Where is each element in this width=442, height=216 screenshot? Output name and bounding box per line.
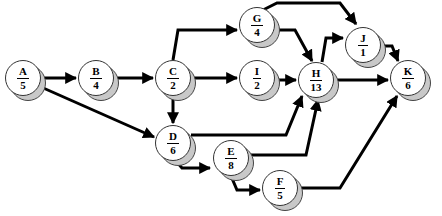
node-label: J: [358, 33, 368, 46]
node-f: F5: [262, 170, 298, 206]
network-diagram: A5B4C2D6E8F5G4I2H13J1K6: [0, 0, 442, 216]
node-circle: D6: [155, 125, 191, 161]
node-d: D6: [155, 125, 191, 161]
node-duration: 2: [254, 79, 260, 91]
node-circle: H13: [298, 62, 334, 98]
node-i: I2: [239, 60, 275, 96]
node-label: H: [310, 68, 323, 81]
node-label: K: [402, 66, 415, 79]
node-h: H13: [298, 62, 334, 98]
node-circle: F5: [262, 170, 298, 206]
edge-h-j: [322, 38, 343, 62]
node-label: E: [225, 146, 236, 159]
node-circle: B4: [78, 60, 114, 96]
node-label: F: [275, 176, 286, 189]
node-circle: E8: [213, 140, 249, 176]
node-circle: G4: [239, 7, 275, 43]
node-j: J1: [345, 27, 381, 63]
node-label: C: [167, 66, 179, 79]
node-duration: 1: [360, 46, 366, 58]
edge-c-g: [173, 30, 237, 60]
node-duration: 6: [170, 144, 176, 156]
node-circle: J1: [345, 27, 381, 63]
node-g: G4: [239, 7, 275, 43]
node-label: A: [17, 66, 29, 79]
node-circle: K6: [390, 60, 426, 96]
edge-f-k: [298, 96, 397, 188]
node-duration: 13: [311, 81, 322, 93]
node-duration: 4: [254, 26, 260, 38]
node-duration: 2: [170, 79, 176, 91]
node-duration: 8: [228, 159, 234, 171]
node-duration: 5: [20, 79, 26, 91]
node-c: C2: [155, 60, 191, 96]
node-label: D: [167, 131, 179, 144]
node-circle: I2: [239, 60, 275, 96]
node-duration: 4: [93, 79, 99, 91]
node-circle: C2: [155, 60, 191, 96]
node-label: B: [90, 66, 101, 79]
edge-e-h: [249, 100, 318, 155]
node-a: A5: [5, 60, 41, 96]
node-label: I: [253, 66, 261, 79]
node-duration: 5: [277, 189, 283, 201]
edge-d-h: [191, 96, 302, 135]
node-circle: A5: [5, 60, 41, 96]
node-label: G: [251, 13, 264, 26]
node-duration: 6: [405, 79, 411, 91]
node-e: E8: [213, 140, 249, 176]
node-b: B4: [78, 60, 114, 96]
edge-g-h: [275, 30, 312, 61]
node-k: K6: [390, 60, 426, 96]
